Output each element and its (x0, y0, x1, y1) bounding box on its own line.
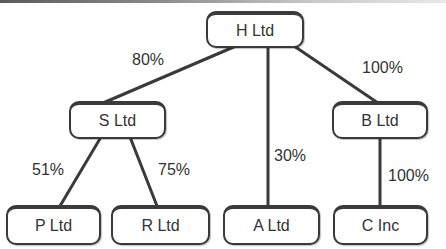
ownership-label-h-s: 80% (132, 51, 164, 69)
node-s-ltd[interactable]: S Ltd (69, 101, 166, 139)
ownership-label-s-p: 51% (32, 161, 64, 179)
edge-h-s (103, 46, 236, 103)
node-a-ltd[interactable]: A Ltd (223, 205, 320, 245)
node-label: B Ltd (361, 112, 398, 130)
node-h-ltd[interactable]: H Ltd (206, 11, 304, 48)
node-label: H Ltd (236, 22, 274, 40)
node-b-ltd[interactable]: B Ltd (332, 101, 428, 139)
ownership-label-h-b: 100% (362, 59, 403, 77)
node-label: S Ltd (99, 112, 136, 130)
edge-s-r (130, 137, 157, 206)
node-r-ltd[interactable]: R Ltd (111, 205, 210, 245)
node-p-ltd[interactable]: P Ltd (6, 205, 101, 245)
node-label: C Inc (362, 217, 399, 235)
edge-s-p (60, 137, 101, 206)
ownership-label-h-a: 30% (274, 147, 306, 165)
ownership-label-s-r: 75% (158, 161, 190, 179)
node-c-inc[interactable]: C Inc (333, 205, 428, 245)
node-label: A Ltd (253, 217, 289, 235)
node-label: R Ltd (141, 217, 179, 235)
ownership-label-b-c: 100% (388, 167, 429, 185)
node-label: P Ltd (35, 217, 72, 235)
